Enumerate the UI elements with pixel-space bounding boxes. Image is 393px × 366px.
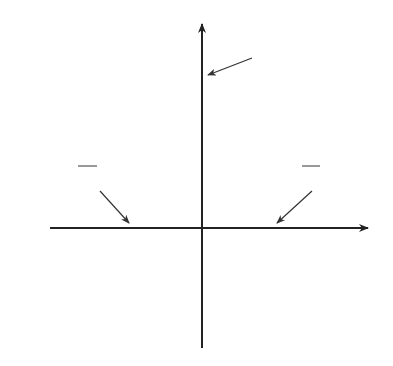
right-root-pointer-arrow: [277, 191, 312, 223]
parabola-chart: [0, 0, 393, 366]
left-root-pointer-arrow: [100, 191, 129, 223]
vertex-pointer-arrow: [208, 58, 252, 75]
